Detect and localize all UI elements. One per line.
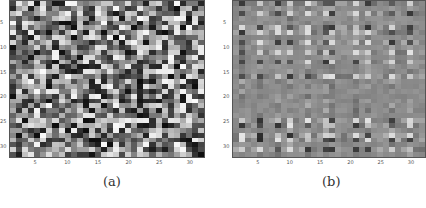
y-tick-label: 20 bbox=[0, 94, 6, 99]
x-tick-label: 20 bbox=[347, 160, 353, 165]
y-tick-label: 15 bbox=[223, 70, 229, 75]
y-tick-label: 25 bbox=[0, 119, 6, 124]
y-tick-label: 25 bbox=[223, 119, 229, 124]
y-tick-label: 20 bbox=[223, 94, 229, 99]
heatmap-a-canvas bbox=[10, 1, 204, 157]
x-tick-label: 10 bbox=[287, 160, 293, 165]
y-tick-label: 5 bbox=[0, 20, 3, 25]
x-tick-label: 30 bbox=[408, 160, 414, 165]
y-tick-label: 10 bbox=[0, 45, 6, 50]
x-tick-label: 10 bbox=[64, 160, 70, 165]
y-tick-label: 10 bbox=[223, 45, 229, 50]
y-tick-label: 30 bbox=[0, 144, 6, 149]
caption-a: (a) bbox=[103, 174, 121, 189]
panel-b: 5101520253051015202530 (b) bbox=[212, 0, 425, 208]
y-tick-label: 5 bbox=[223, 20, 226, 25]
heatmap-a bbox=[9, 0, 205, 158]
x-tick-label: 5 bbox=[256, 160, 259, 165]
x-tick-label: 30 bbox=[187, 160, 193, 165]
panel-a: 5101520253051015202530 (a) bbox=[0, 0, 212, 208]
x-tick-label: 20 bbox=[125, 160, 131, 165]
caption-b: (b) bbox=[322, 174, 340, 189]
x-tick-label: 25 bbox=[156, 160, 162, 165]
y-tick-label: 15 bbox=[0, 70, 6, 75]
x-tick-label: 25 bbox=[378, 160, 384, 165]
x-tick-label: 15 bbox=[95, 160, 101, 165]
x-tick-label: 15 bbox=[317, 160, 323, 165]
x-tick-label: 5 bbox=[34, 160, 37, 165]
heatmap-b-canvas bbox=[233, 1, 425, 157]
heatmap-b bbox=[232, 0, 426, 158]
y-tick-label: 30 bbox=[223, 144, 229, 149]
